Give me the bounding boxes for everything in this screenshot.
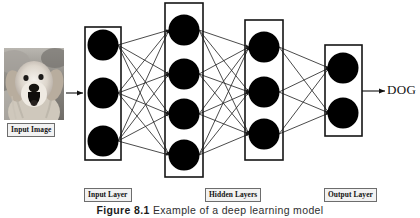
figure-number: Figure 8.1 bbox=[97, 204, 150, 216]
edges-hidden2-to-output bbox=[279, 47, 329, 134]
figure-caption: Figure 8.1 Example of a deep learning mo… bbox=[0, 204, 420, 217]
neuron-hidden1-4 bbox=[169, 140, 200, 171]
neuron-hidden2-2 bbox=[249, 77, 280, 108]
neuron-input-3 bbox=[88, 126, 119, 157]
figure-caption-text: Example of a deep learning model bbox=[153, 204, 324, 216]
neuron-input-2 bbox=[88, 78, 119, 109]
edges-hidden1-to-hidden2 bbox=[199, 30, 249, 155]
edges-input-to-hidden1 bbox=[118, 30, 169, 155]
deep-learning-figure: Input Image Input Layer Hidden Layers Ou… bbox=[0, 0, 420, 218]
input-image-label: Input Image bbox=[7, 123, 55, 137]
neuron-hidden1-2 bbox=[169, 59, 200, 90]
output-prediction-text: DOG bbox=[387, 82, 416, 98]
neuron-hidden1-1 bbox=[169, 15, 200, 46]
input-layer-label: Input Layer bbox=[84, 188, 132, 202]
network-diagram-graphic bbox=[0, 0, 420, 218]
neuron-hidden2-1 bbox=[249, 32, 280, 63]
neuron-output-1 bbox=[328, 53, 359, 84]
neuron-input-1 bbox=[88, 30, 119, 61]
hidden-layers-label: Hidden Layers bbox=[205, 188, 261, 202]
neuron-hidden2-3 bbox=[249, 119, 280, 150]
neuron-hidden1-3 bbox=[169, 99, 200, 130]
output-layer-label: Output Layer bbox=[324, 188, 377, 202]
neuron-output-2 bbox=[328, 98, 359, 129]
